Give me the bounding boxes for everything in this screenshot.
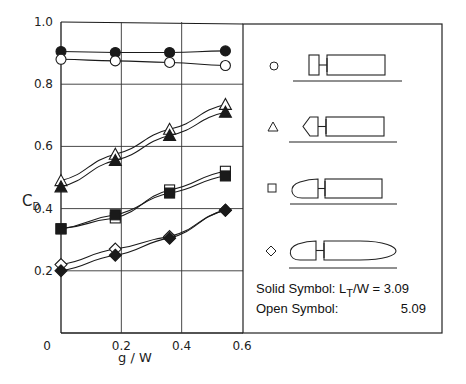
square-marker-icon bbox=[220, 171, 230, 181]
legend-entry-triangle bbox=[268, 117, 397, 142]
circle-marker-icon bbox=[110, 56, 120, 66]
solid-symbol-note: Solid Symbol: LT/W = 3.09 bbox=[256, 281, 409, 299]
series-diamond-solid bbox=[55, 204, 231, 277]
y-tick-label: 0.6 bbox=[34, 139, 53, 153]
series-line bbox=[61, 171, 225, 229]
y-axis-label-main: C bbox=[22, 192, 32, 210]
circle-marker-icon bbox=[56, 54, 66, 64]
circle-marker-icon bbox=[165, 57, 175, 67]
series-circle-open bbox=[56, 54, 230, 70]
x-tick-label: 0 bbox=[43, 339, 51, 353]
square-marker-icon bbox=[56, 224, 66, 234]
series-square-solid bbox=[56, 171, 230, 234]
series-line bbox=[61, 210, 225, 271]
series-line bbox=[61, 104, 225, 180]
circle-marker-icon bbox=[220, 61, 230, 71]
series-line bbox=[61, 51, 225, 53]
drag-coefficient-chart: 0.20.40.60.81.0 00.20.40.6 CD g / W bbox=[0, 0, 466, 384]
solid-param-letter: L bbox=[339, 281, 346, 296]
y-axis-ticks: 0.20.40.60.81.0 bbox=[34, 15, 53, 278]
solid-param-value: /W = 3.09 bbox=[353, 281, 409, 296]
diamond-marker-icon bbox=[164, 232, 176, 244]
square-symbol-icon bbox=[268, 184, 276, 192]
legend-entry-square bbox=[268, 179, 397, 204]
series-line bbox=[61, 112, 225, 187]
flat-disk-body-icon bbox=[309, 55, 385, 75]
circle-marker-icon bbox=[220, 46, 230, 56]
legend-panel: Solid Symbol: LT/W = 3.09 Open Symbol: 5… bbox=[243, 24, 442, 333]
streamlined-body-icon bbox=[290, 241, 396, 260]
diamond-symbol-icon bbox=[266, 246, 276, 256]
open-symbol-value: 5.09 bbox=[401, 301, 426, 316]
y-axis-label: CD bbox=[22, 192, 40, 212]
open-symbol-label: Open Symbol: bbox=[256, 301, 338, 316]
series-diamond-open bbox=[55, 204, 231, 270]
data-series bbox=[55, 46, 231, 277]
legend-entry-diamond bbox=[266, 241, 397, 268]
y-axis-label-sub: D bbox=[32, 201, 40, 212]
bullet-nose-body-icon bbox=[292, 179, 382, 198]
series-line bbox=[61, 210, 225, 264]
y-tick-label: 1.0 bbox=[34, 15, 53, 29]
series-line bbox=[61, 59, 225, 65]
circle-symbol-icon bbox=[270, 62, 278, 70]
legend-entry-circle bbox=[270, 55, 402, 81]
y-tick-label: 0.2 bbox=[34, 264, 53, 278]
series-circle-solid bbox=[56, 46, 230, 58]
diamond-marker-icon bbox=[219, 204, 231, 216]
x-axis-label: g / W bbox=[118, 350, 152, 365]
series-triangle-solid bbox=[55, 106, 231, 192]
x-tick-label: 0.4 bbox=[172, 339, 191, 353]
top-border bbox=[61, 22, 243, 24]
series-triangle-open bbox=[55, 98, 231, 185]
solid-symbol-label: Solid Symbol: bbox=[256, 281, 335, 296]
pointed-nose-body-icon bbox=[303, 117, 384, 136]
circle-marker-icon bbox=[165, 47, 175, 57]
x-tick-label: 0.6 bbox=[232, 339, 251, 353]
triangle-symbol-icon bbox=[268, 122, 278, 131]
square-marker-icon bbox=[165, 188, 175, 198]
square-marker-icon bbox=[110, 210, 120, 220]
y-tick-label: 0.8 bbox=[34, 77, 53, 91]
